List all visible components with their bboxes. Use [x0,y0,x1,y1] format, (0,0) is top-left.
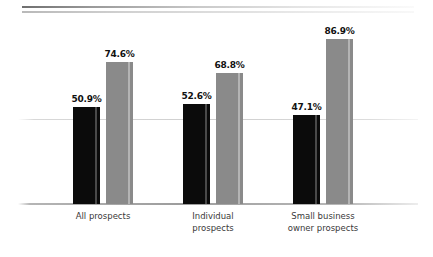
bar-series1-cat1[interactable]: 52.6% [183,104,210,204]
bar-series1-cat2[interactable]: 47.1% [293,115,320,205]
category-label-2: Small business owner prospects [263,210,383,234]
bar-column [293,115,320,205]
bar-column [106,62,133,204]
bar-group-2: 47.1% 86.9% [293,34,353,204]
bar-series2-cat1[interactable]: 68.8% [216,73,243,204]
bar-value-label: 86.9% [324,26,354,36]
bar-group-1: 52.6% 68.8% [183,34,243,204]
bar-series2-cat0[interactable]: 74.6% [106,62,133,204]
bar-column [183,104,210,204]
bar-series1-cat0[interactable]: 50.9% [73,107,100,204]
bar-series2-cat2[interactable]: 86.9% [326,39,353,204]
bar-column [216,73,243,204]
bar-chart: 50.9% 74.6% 52.6% 68.8% 47.1% [0,0,433,257]
bar-value-label: 74.6% [104,49,134,59]
category-label-0: All prospects [48,210,158,222]
bar-group-0: 50.9% 74.6% [73,34,133,204]
bar-column [326,39,353,204]
bar-column [73,107,100,204]
bar-value-label: 47.1% [291,102,321,112]
bar-value-label: 68.8% [214,60,244,70]
bar-value-label: 52.6% [181,91,211,101]
bar-value-label: 50.9% [71,94,101,104]
category-label-1: Individual prospects [158,210,268,234]
